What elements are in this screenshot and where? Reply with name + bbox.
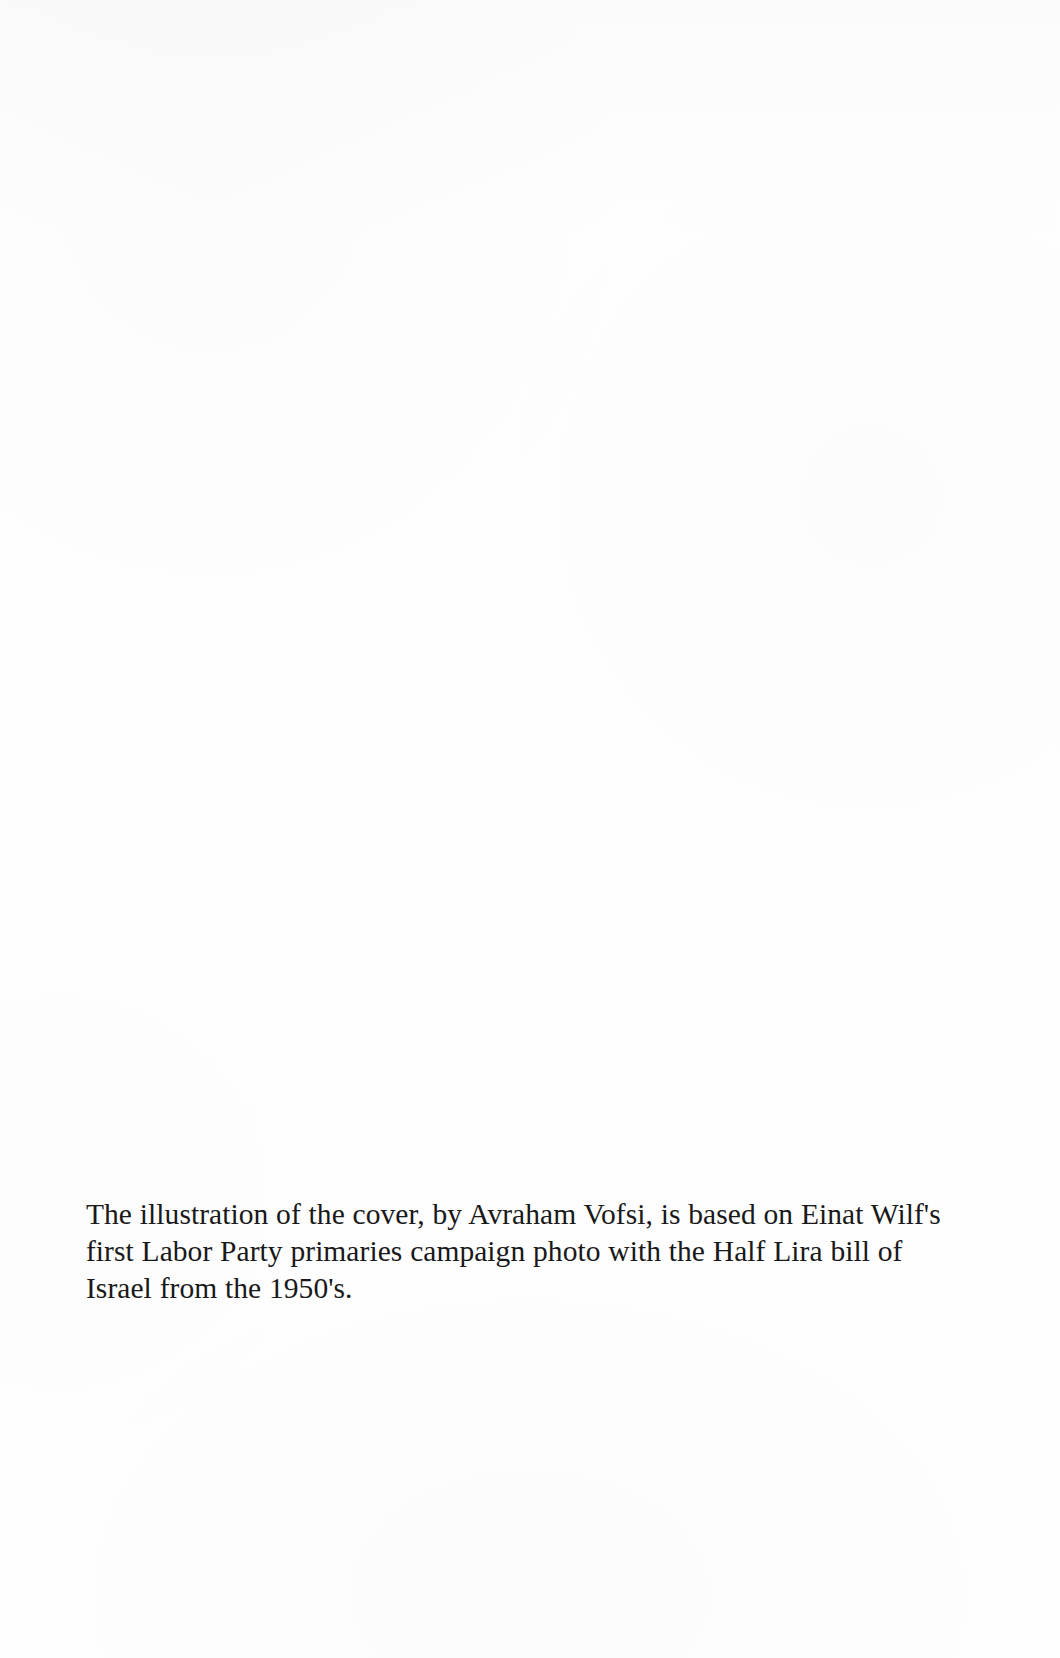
cover-credit-caption: The illustration of the cover, by Avraha… — [86, 1196, 948, 1307]
book-page: The illustration of the cover, by Avraha… — [0, 0, 1060, 1658]
lower-blank-area — [0, 1330, 1060, 1658]
cover-credit-text: The illustration of the cover, by Avraha… — [86, 1196, 948, 1307]
upper-blank-area — [0, 0, 1060, 1190]
